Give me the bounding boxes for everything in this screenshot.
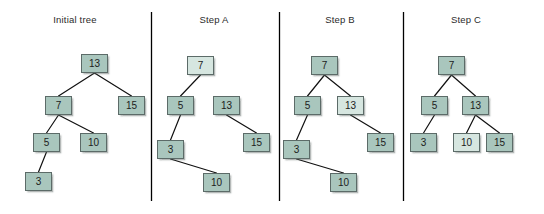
- tree-edge-step-b-n13-n15: [351, 115, 381, 133]
- tree-node-label: 15: [244, 134, 269, 151]
- tree-edge-step-a-n13-n15: [227, 115, 257, 133]
- tree-node-label: 7: [439, 57, 464, 74]
- tree-node-step-b-n10: 10: [330, 173, 357, 192]
- tree-node-step-c-n13: 13: [462, 96, 489, 115]
- tree-node-label: 10: [331, 174, 356, 191]
- tree-node-label: 7: [312, 57, 337, 74]
- tree-node-label: 13: [463, 97, 488, 114]
- tree-node-step-a-n10: 10: [203, 173, 230, 192]
- tree-node-label: 3: [411, 134, 436, 151]
- tree-node-label: 5: [295, 97, 320, 114]
- tree-node-label: 10: [81, 134, 106, 151]
- tree-edge-initial-tree-n13-n15: [95, 73, 132, 96]
- tree-edge-step-b-n7-n5: [308, 75, 325, 96]
- tree-node-label: 10: [454, 134, 479, 151]
- tree-edge-step-b-n7-n13: [325, 75, 351, 96]
- tree-node-label: 15: [487, 134, 512, 151]
- tree-node-label: 7: [188, 57, 213, 74]
- tree-node-step-c-n10: 10: [453, 133, 480, 152]
- tree-node-label: 13: [214, 97, 239, 114]
- tree-node-label: 7: [46, 97, 71, 114]
- tree-node-step-a-n5: 5: [167, 96, 194, 115]
- tree-node-step-a-n15: 15: [243, 133, 270, 152]
- tree-edge-step-c-n13-n15: [476, 115, 500, 133]
- tree-node-label: 13: [338, 97, 363, 114]
- tree-edge-step-c-n13-n10: [467, 115, 476, 133]
- tree-node-step-c-n5: 5: [421, 96, 448, 115]
- tree-node-step-b-n15: 15: [367, 133, 394, 152]
- tree-node-step-c-n7: 7: [438, 56, 465, 75]
- panel-title-step-a: Step A: [199, 14, 228, 25]
- tree-node-step-b-n13: 13: [337, 96, 364, 115]
- tree-edge-step-a-n5-n3: [171, 115, 181, 140]
- tree-node-initial-tree-n7: 7: [45, 96, 72, 115]
- tree-node-step-b-n7: 7: [311, 56, 338, 75]
- tree-edge-step-b-n5-n3: [297, 115, 308, 140]
- tree-edge-step-c-n5-n3: [424, 115, 435, 133]
- tree-edge-step-c-n7-n13: [452, 75, 476, 96]
- panel-title-initial-tree: Initial tree: [53, 14, 97, 25]
- tree-edge-step-b-n3-n10: [297, 159, 344, 173]
- panel-title-step-b: Step B: [325, 14, 355, 25]
- tree-node-step-b-n5: 5: [294, 96, 321, 115]
- tree-node-initial-tree-n3: 3: [25, 172, 52, 191]
- tree-node-step-a-n3: 3: [157, 140, 184, 159]
- tree-node-initial-tree-n5: 5: [33, 133, 60, 152]
- panel-title-step-c: Step C: [451, 14, 481, 25]
- tree-node-initial-tree-n13: 13: [81, 54, 108, 73]
- tree-node-label: 5: [422, 97, 447, 114]
- tree-node-label: 5: [34, 134, 59, 151]
- tree-node-label: 13: [82, 55, 107, 72]
- tree-edge-initial-tree-n7-n5: [47, 115, 59, 133]
- tree-edge-initial-tree-n7-n10: [59, 115, 94, 133]
- tree-node-label: 3: [158, 141, 183, 158]
- tree-node-label: 10: [204, 174, 229, 191]
- tree-node-initial-tree-n15: 15: [118, 96, 145, 115]
- tree-node-step-a-n13: 13: [213, 96, 240, 115]
- tree-edge-initial-tree-n13-n7: [59, 73, 95, 96]
- tree-edge-step-a-n3-n10: [171, 159, 217, 173]
- tree-node-label: 3: [26, 173, 51, 190]
- tree-edge-step-c-n7-n5: [435, 75, 452, 96]
- tree-node-label: 5: [168, 97, 193, 114]
- tree-node-step-c-n15: 15: [486, 133, 513, 152]
- tree-node-label: 3: [284, 141, 309, 158]
- tree-node-initial-tree-n10: 10: [80, 133, 107, 152]
- tree-node-step-a-n7: 7: [187, 56, 214, 75]
- tree-node-step-c-n3: 3: [410, 133, 437, 152]
- diagram-canvas: Initial tree137155103Step A751331510Step…: [0, 0, 544, 214]
- tree-edge-step-a-n7-n5: [181, 75, 201, 96]
- tree-node-label: 15: [368, 134, 393, 151]
- tree-node-label: 15: [119, 97, 144, 114]
- tree-edge-initial-tree-n5-n3: [39, 152, 47, 172]
- tree-node-step-b-n3: 3: [283, 140, 310, 159]
